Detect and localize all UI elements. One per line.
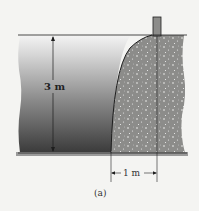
dam-post — [153, 17, 161, 36]
width-label: 1 m — [123, 168, 141, 178]
width-dimension: 1 m — [111, 153, 157, 182]
arrow-left-icon — [111, 171, 115, 174]
arrow-right-icon — [153, 171, 157, 174]
figure-caption: (a) — [94, 188, 106, 198]
dam-diagram: 3 m 1 m (a) — [0, 0, 199, 211]
depth-label: 3 m — [44, 81, 65, 92]
